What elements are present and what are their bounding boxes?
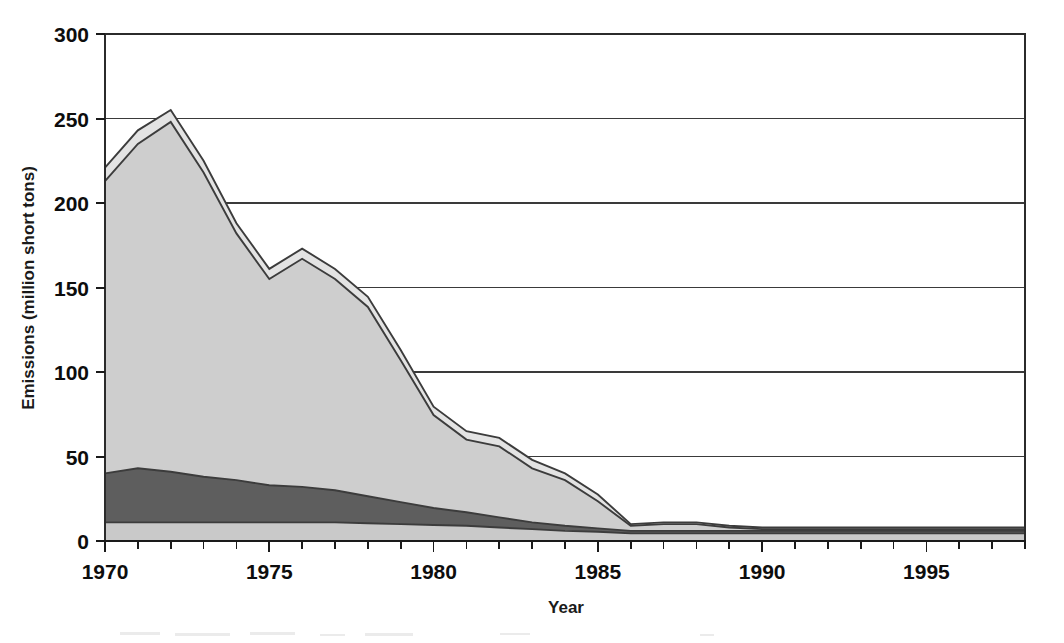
scan-artifact (175, 633, 230, 636)
x-axis-title: Year (548, 598, 584, 617)
scan-artifact (120, 632, 160, 635)
y-axis-title: Emissions (million short tons) (19, 166, 38, 410)
y-tick-label: 150 (54, 277, 89, 300)
y-tick-label: 300 (54, 23, 89, 46)
scan-artifact (700, 634, 714, 636)
scan-artifact (365, 633, 413, 636)
x-tick-label: 1975 (246, 560, 293, 583)
y-tick-label: 200 (54, 192, 89, 215)
y-tick-label: 50 (66, 446, 89, 469)
scan-artifact (320, 634, 345, 636)
y-tick-label: 0 (77, 530, 89, 553)
x-tick-label: 1990 (739, 560, 786, 583)
emissions-stacked-area-chart: 197019751980198519901995 050100150200250… (0, 0, 1064, 643)
x-tick-label: 1980 (410, 560, 457, 583)
y-tick-label: 100 (54, 361, 89, 384)
chart-figure: 197019751980198519901995 050100150200250… (0, 0, 1064, 643)
x-tick-label: 1985 (574, 560, 621, 583)
scan-artifact (250, 632, 295, 635)
y-tick-label: 250 (54, 108, 89, 131)
scan-artifact (500, 633, 530, 635)
x-tick-label: 1970 (82, 560, 129, 583)
x-tick-label: 1995 (903, 560, 950, 583)
